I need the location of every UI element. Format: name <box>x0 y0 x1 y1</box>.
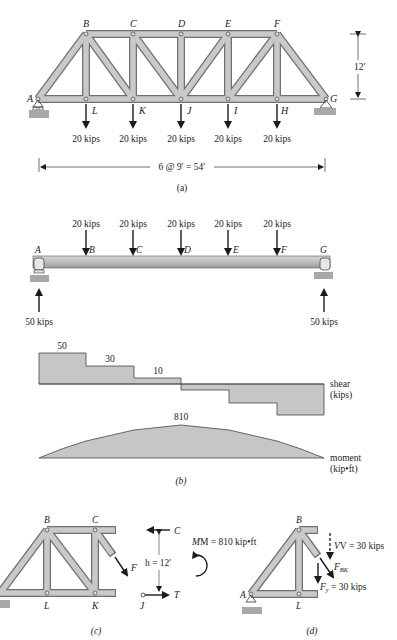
moment-peak-label: 810 <box>174 412 189 422</box>
shear-V-label: VV = 30 kips <box>334 541 385 551</box>
node-label-B: B <box>83 18 89 29</box>
reaction-labels: 50 kips 50 kips <box>25 317 338 327</box>
span-dim-label: 6 @ 9′ = 54′ <box>159 162 206 172</box>
truss-analysis-figure: B C D E F A G L K J I H 20 kips 20 kips … <box>0 0 397 640</box>
node-label-K-c: K <box>91 601 99 611</box>
figure-b-beam: 20 kips 20 kips 20 kips 20 kips 20 kips … <box>25 219 361 487</box>
load-label-K: 20 kips <box>119 134 147 144</box>
truss-members <box>38 34 326 99</box>
caption-a: (a) <box>177 183 188 194</box>
height-dim-label: 12′ <box>354 62 366 72</box>
load-label-D: 20 kips <box>167 219 195 229</box>
load-arrows-b <box>86 230 277 254</box>
force-F-label: F <box>130 563 137 573</box>
shear-value-50: 50 <box>57 341 67 351</box>
node-label-L: L <box>91 105 98 116</box>
force-Fy-label: Fy = 30 kips <box>319 582 367 593</box>
caption-b: (b) <box>175 476 186 487</box>
moment-curl-icon <box>196 555 207 576</box>
shear-value-30: 30 <box>105 354 115 364</box>
node-label-B-d: B <box>296 515 302 525</box>
moment-diagram <box>39 425 324 458</box>
load-label-C: 20 kips <box>119 219 147 229</box>
moment-axis-label: moment <box>330 453 361 463</box>
node-label-A: A <box>26 93 34 104</box>
reaction-arrows <box>39 290 324 312</box>
load-label-E: 20 kips <box>214 219 242 229</box>
node-label-J: J <box>187 105 192 116</box>
load-label-L: 20 kips <box>72 134 100 144</box>
load-label-B: 20 kips <box>72 219 100 229</box>
figure-d-freebody: B A L VV = 30 kips FBK Fy = 30 kips (d) <box>239 515 385 637</box>
node-label-A-d: A <box>239 590 246 600</box>
joint-J-icon <box>141 593 145 597</box>
shear-unit-label: (kips) <box>330 390 352 401</box>
reaction-left-label: 50 kips <box>25 317 53 327</box>
node-label-H: H <box>280 105 289 116</box>
caption-d: (d) <box>306 626 317 637</box>
beam <box>33 256 330 268</box>
node-label-F: F <box>273 18 281 29</box>
shear-axis-label: shear <box>330 379 351 389</box>
node-label-L-c: L <box>43 601 49 611</box>
load-label-F: 20 kips <box>263 219 291 229</box>
caption-c: (c) <box>91 626 102 637</box>
h-label: h = 12′ <box>145 558 171 568</box>
tension-label: T <box>174 590 180 600</box>
moment-label: MM = 810 kip•ft <box>191 537 257 547</box>
moment-value: M = 810 kip•ft <box>200 537 257 547</box>
shear-value-10: 10 <box>153 366 163 376</box>
figure-a-truss: B C D E F A G L K J I H 20 kips 20 kips … <box>26 18 366 194</box>
node-label-K: K <box>138 105 147 116</box>
support-c-icon <box>0 600 10 608</box>
load-label-J: 20 kips <box>167 134 195 144</box>
figure-c-section: F B C L K (c) C h = 12′ T J MM = 810 kip… <box>0 515 257 637</box>
beam-label-G: G <box>320 245 327 255</box>
force-F-arrow <box>115 557 127 575</box>
load-label-H: 20 kips <box>263 134 291 144</box>
beam-label-B: B <box>89 245 95 255</box>
node-label-D: D <box>177 18 186 29</box>
beam-label-E: E <box>232 245 239 255</box>
node-label-B-c: B <box>44 515 50 525</box>
node-label-I: I <box>233 105 238 116</box>
beam-label-D: D <box>183 245 191 255</box>
compression-label: C <box>174 526 181 536</box>
node-label-C-c: C <box>92 515 99 525</box>
node-label-E: E <box>224 18 231 29</box>
force-FBK-label: FBK <box>333 562 349 573</box>
beam-label-C: C <box>136 245 143 255</box>
node-label-G: G <box>330 93 337 104</box>
force-FBK-arrow <box>320 558 333 577</box>
node-label-L-d: L <box>295 601 301 611</box>
moment-unit-label: (kip•ft) <box>330 464 358 475</box>
node-label-J-c: J <box>140 601 145 611</box>
node-label-C: C <box>130 18 137 29</box>
reaction-right-label: 50 kips <box>310 317 338 327</box>
load-labels-a: 20 kips 20 kips 20 kips 20 kips 20 kips <box>72 134 291 144</box>
beam-label-A: A <box>34 245 41 255</box>
load-label-I: 20 kips <box>214 134 242 144</box>
load-arrows-a <box>86 104 277 127</box>
load-labels-b: 20 kips 20 kips 20 kips 20 kips 20 kips <box>72 219 291 229</box>
beam-label-F: F <box>280 245 287 255</box>
